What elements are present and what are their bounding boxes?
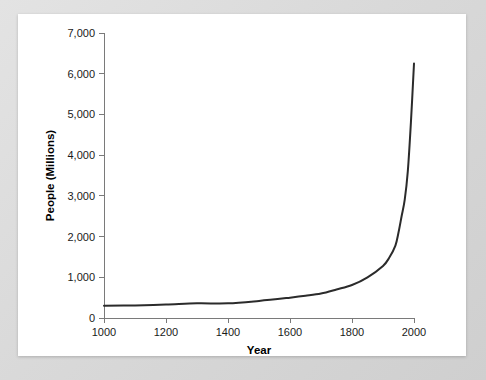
x-tick-label: 1600	[278, 326, 302, 338]
y-tick-label: 6,000	[67, 68, 95, 80]
y-axis-title: People (Millions)	[44, 130, 56, 222]
x-tick-label: 1800	[340, 326, 364, 338]
y-tick-label: 1,000	[67, 271, 95, 283]
y-tick-label: 2,000	[67, 231, 95, 243]
y-tick-label: 4,000	[67, 149, 95, 161]
x-tick-label: 1200	[154, 326, 178, 338]
x-tick-label: 1400	[216, 326, 240, 338]
series-line-world-population	[104, 64, 414, 306]
y-tick-label: 3,000	[67, 190, 95, 202]
population-line-chart: 01,0002,0003,0004,0005,0006,0007,0001000…	[18, 14, 466, 356]
x-axis-title: Year	[247, 344, 272, 356]
x-tick-label: 2000	[402, 326, 426, 338]
chart-panel: 01,0002,0003,0004,0005,0006,0007,0001000…	[18, 14, 466, 356]
x-tick-label: 1000	[92, 326, 116, 338]
y-tick-label: 5,000	[67, 108, 95, 120]
y-tick-label: 0	[89, 312, 95, 324]
y-tick-label: 7,000	[67, 27, 95, 39]
axis-spines	[104, 33, 414, 318]
figure-frame: 01,0002,0003,0004,0005,0006,0007,0001000…	[0, 0, 486, 380]
